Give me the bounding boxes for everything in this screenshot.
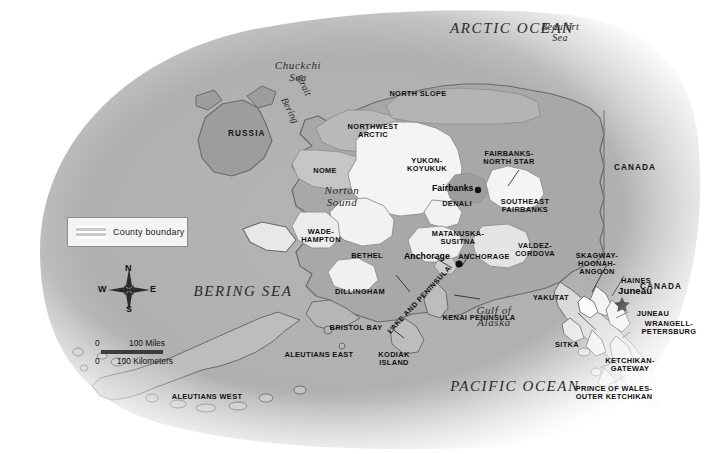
scale-miles-value: 100 Miles [129, 338, 165, 348]
alaska-map: ARCTIC OCEAN PACIFIC OCEAN BERING SEA Be… [0, 0, 708, 454]
compass-north-label: N [125, 263, 132, 273]
scale-bar-graphic [101, 350, 163, 354]
compass-east-label: E [150, 284, 156, 294]
compass-south-label: S [126, 304, 132, 314]
compass-west-label: W [98, 284, 107, 294]
compass-rose: N S W E [98, 264, 160, 316]
legend-label: County boundary [113, 227, 185, 237]
fairbanks-marker [475, 187, 481, 193]
anchorage-marker [455, 260, 462, 267]
scale-miles-zero: 0 [95, 338, 100, 348]
scale-km-value: 100 Kilometers [117, 356, 173, 366]
scale-bar: 0 100 Miles 0 100 Kilometers [95, 338, 213, 364]
legend-box[interactable]: County boundary [67, 217, 188, 247]
county-boundary-swatch-icon [76, 226, 106, 239]
scale-km-zero: 0 [95, 356, 100, 366]
